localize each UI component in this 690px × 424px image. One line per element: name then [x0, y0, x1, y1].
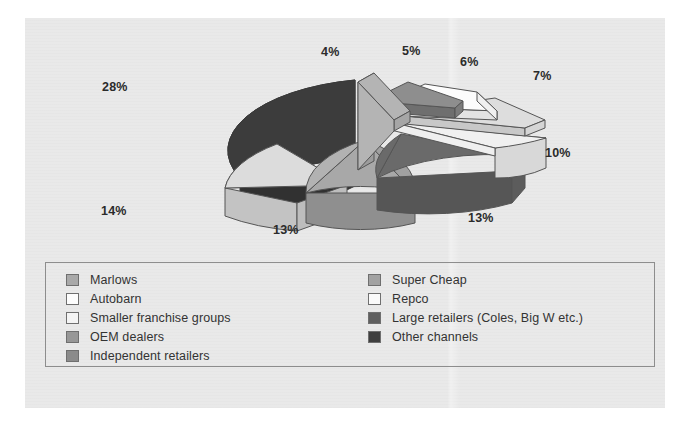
legend-label-oem-dealers: OEM dealers — [90, 330, 164, 344]
legend-label-super-cheap: Super Cheap — [392, 273, 467, 287]
legend-swatch-large-retailers — [368, 312, 381, 324]
pie-label-13-bottom: 13% — [273, 223, 299, 237]
legend-swatch-super-cheap — [368, 274, 381, 286]
legend-item-smaller-franchise-groups[interactable]: Smaller franchise groups — [66, 309, 350, 327]
legend-column-left: Marlows Autobarn Smaller franchise group… — [46, 271, 350, 366]
legend-swatch-marlows — [66, 274, 79, 286]
pie-label-13-right: 13% — [468, 211, 494, 225]
legend-swatch-oem-dealers — [66, 331, 79, 343]
legend-swatch-independent-retailers — [66, 350, 79, 362]
pie-label-7: 7% — [533, 69, 551, 83]
pie-label-28: 28% — [102, 80, 128, 94]
legend-item-large-retailers[interactable]: Large retailers (Coles, Big W etc.) — [368, 309, 654, 327]
legend-item-repco[interactable]: Repco — [368, 290, 654, 308]
legend-label-marlows: Marlows — [90, 273, 137, 287]
legend-swatch-autobarn — [66, 293, 79, 305]
pie-label-5: 5% — [402, 44, 420, 58]
legend-label-large-retailers: Large retailers (Coles, Big W etc.) — [392, 311, 583, 325]
pie-label-6: 6% — [460, 55, 478, 69]
pie-label-4: 4% — [321, 45, 339, 59]
legend-item-oem-dealers[interactable]: OEM dealers — [66, 328, 350, 346]
legend-column-right: Super Cheap Repco Large retailers (Coles… — [350, 271, 654, 366]
legend-label-autobarn: Autobarn — [90, 292, 142, 306]
legend-label-repco: Repco — [392, 292, 429, 306]
legend-label-other-channels: Other channels — [392, 330, 478, 344]
legend-item-independent-retailers[interactable]: Independent retailers — [66, 347, 350, 365]
legend-swatch-smaller-franchise-groups — [66, 312, 79, 324]
legend-swatch-other-channels — [368, 331, 381, 343]
legend-label-smaller-franchise-groups: Smaller franchise groups — [90, 311, 231, 325]
pie-label-10: 10% — [545, 146, 571, 160]
legend-item-other-channels[interactable]: Other channels — [368, 328, 654, 346]
legend-swatch-repco — [368, 293, 381, 305]
legend-item-autobarn[interactable]: Autobarn — [66, 290, 350, 308]
pie-chart-canvas: .edge{stroke:#555;stroke-width:1;stroke-… — [25, 18, 665, 250]
pie-label-14: 14% — [101, 204, 127, 218]
legend-item-marlows[interactable]: Marlows — [66, 271, 350, 289]
chart-legend: Marlows Autobarn Smaller franchise group… — [45, 262, 655, 367]
pie-chart-figure: .edge{stroke:#555;stroke-width:1;stroke-… — [0, 0, 690, 424]
legend-label-independent-retailers: Independent retailers — [90, 349, 210, 363]
legend-item-super-cheap[interactable]: Super Cheap — [368, 271, 654, 289]
